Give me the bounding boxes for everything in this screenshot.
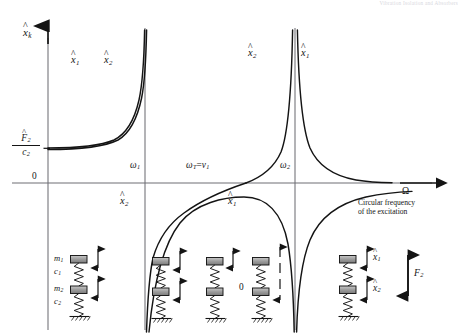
oscillator-label-c1: c1 (54, 267, 61, 277)
curve-x1-region3 (297, 30, 392, 183)
static-deflection-label: ^F2 c2 (12, 133, 40, 157)
curve-label-x1-lower: ^x1 (228, 196, 236, 207)
figure-canvas (0, 0, 460, 334)
oscillator-label-c2: c2 (54, 297, 61, 307)
oscillator-schematic-1 (70, 249, 99, 321)
force-label-F2: F2 (414, 268, 423, 279)
oscillator-label-m1: m1 (54, 254, 63, 264)
y-axis-label: ^xk (23, 27, 31, 40)
curve-x2-region1 (48, 30, 147, 150)
tuning-point-label: ωT=ν1 (186, 161, 209, 171)
omega-1-label: ω1 (130, 161, 140, 171)
amplitude-label-x1: ^x1 (373, 252, 381, 263)
omega-2-label: ω2 (280, 161, 290, 171)
curve-label-x2-lower: ^x2 (120, 196, 128, 207)
oscillator-label-m2: m2 (54, 284, 63, 294)
oscillator-schematic-5 (339, 249, 368, 321)
x-axis-caption: Circular frequencyof the excitation (358, 198, 415, 217)
figure-frequency-response: Vibration Isolation and Absorbers (0, 0, 460, 334)
curve-label-x1-region1: ^x1 (71, 55, 79, 66)
curve-label-x2-region2: ^x2 (248, 48, 256, 59)
amplitude-label-x2: ^x2 (373, 283, 381, 294)
x-axis-label: Ω (402, 186, 409, 196)
origin-label: 0 (32, 172, 37, 181)
zero-amplitude-marker: 0 (239, 283, 244, 292)
oscillator-schematic-3 (206, 251, 234, 323)
curve-x1-region1 (48, 30, 145, 148)
oscillator-schematic-4 (252, 247, 281, 323)
curve-label-x2-region1: ^x2 (104, 55, 112, 66)
curve-label-x1-region3: ^x1 (301, 48, 309, 59)
